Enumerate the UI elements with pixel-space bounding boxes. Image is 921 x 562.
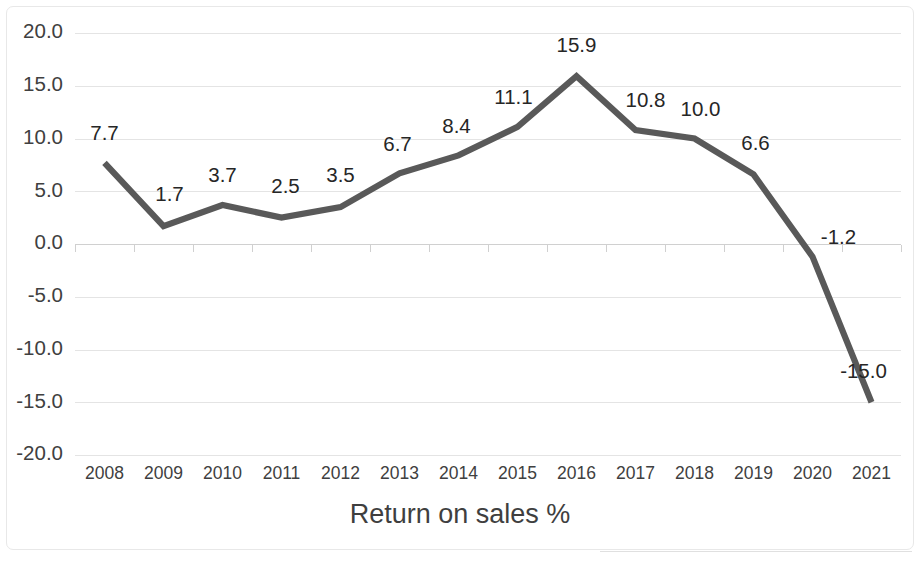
y-axis-tick-label: -20.0 [16, 441, 63, 464]
data-label: 3.7 [208, 163, 237, 186]
data-label: 15.9 [557, 33, 597, 56]
data-label: 6.6 [741, 131, 770, 154]
y-axis-tick-label: -10.0 [16, 336, 63, 359]
x-axis-tick-label: 2017 [616, 463, 655, 483]
data-label: 2.5 [271, 174, 300, 197]
x-axis-tick-label: 2014 [439, 463, 478, 483]
data-label: 8.4 [442, 114, 471, 137]
x-axis-tick-label: 2013 [380, 463, 419, 483]
x-axis-tick-label: 2016 [557, 463, 596, 483]
x-axis-tick-label: 2021 [852, 463, 891, 483]
series-line-return-on-sales [105, 76, 872, 402]
x-axis-tick-label: 2020 [793, 463, 832, 483]
x-axis-tick-label: 2018 [675, 463, 714, 483]
y-axis-tick-label: 20.0 [23, 19, 63, 42]
data-label: 1.7 [155, 182, 184, 205]
y-axis-tick-label: 15.0 [23, 72, 63, 95]
data-label: 6.7 [383, 132, 412, 155]
x-axis-tick-label: 2012 [321, 463, 360, 483]
data-label: 11.1 [494, 85, 532, 108]
series-path-group [105, 76, 872, 402]
y-axis-tick-label: -5.0 [28, 283, 63, 306]
x-axis-tick-label: 2019 [734, 463, 773, 483]
y-axis-tick-label: 0.0 [35, 230, 64, 253]
y-axis-tick-labels: 20.015.010.05.00.0-5.0-10.0-15.0-20.0 [16, 19, 63, 464]
x-axis-tick-label: 2010 [203, 463, 242, 483]
x-axis-line-group [75, 245, 902, 252]
data-label: 3.5 [326, 163, 355, 186]
chart-container: 20.015.010.05.00.0-5.0-10.0-15.0-20.0 20… [0, 0, 921, 562]
line-chart: 20.015.010.05.00.0-5.0-10.0-15.0-20.0 20… [0, 0, 921, 562]
data-label: 10.0 [681, 97, 721, 120]
x-axis-tick-label: 2009 [144, 463, 183, 483]
data-label: 7.7 [90, 121, 119, 144]
y-axis-tick-label: 10.0 [23, 125, 63, 148]
y-axis-tick-label: -15.0 [16, 389, 63, 412]
data-label: 10.8 [626, 88, 666, 111]
x-axis-tick-labels: 2008200920102011201220132014201520162017… [85, 463, 891, 483]
x-axis-title: Return on sales % [350, 499, 571, 529]
y-axis-tick-label: 5.0 [35, 178, 64, 201]
x-axis-tick-label: 2008 [85, 463, 124, 483]
data-label: -1.2 [821, 225, 856, 248]
data-label: -15.0 [840, 359, 887, 382]
x-axis-tick-label: 2015 [498, 463, 537, 483]
x-axis-tick-label: 2011 [263, 463, 301, 483]
